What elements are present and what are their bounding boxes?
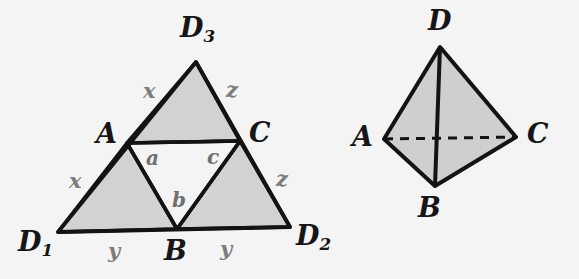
figure-root: D3 D1 D2 A B C x z x z y y a b c D A B C [0, 0, 579, 279]
label-edge-lower-left-x: x [69, 170, 82, 191]
label-inner-b: b [172, 190, 186, 210]
tetra-face-dbc [435, 47, 516, 186]
label-vertex-d1-subscript: 1 [41, 240, 53, 260]
label-tetra-vertex-a: A [352, 123, 373, 150]
label-vertex-b: B [164, 237, 187, 264]
label-edge-bottom-left-y: y [108, 240, 120, 261]
tetrahedron-group [384, 47, 516, 186]
label-vertex-d1: D1 [18, 228, 53, 259]
label-tetra-vertex-c: C [527, 120, 549, 147]
segment-ac [127, 141, 240, 143]
label-edge-upper-left-x: x [143, 80, 156, 101]
label-vertex-a: A [96, 120, 117, 147]
label-inner-a: a [146, 148, 159, 168]
label-vertex-d3-subscript: 3 [203, 26, 215, 46]
label-tetra-vertex-b: B [418, 194, 441, 221]
label-edge-lower-right-z: z [276, 168, 288, 189]
figure-canvas [0, 0, 579, 279]
label-vertex-d2: D2 [296, 222, 331, 253]
label-tetra-vertex-d: D [428, 7, 451, 34]
label-inner-c: c [207, 147, 219, 167]
label-vertex-d2-subscript: 2 [319, 234, 331, 254]
label-vertex-d3: D3 [180, 14, 215, 45]
label-edge-bottom-right-y: y [220, 238, 232, 259]
label-edge-upper-right-z: z [226, 79, 238, 100]
tetra-edge-ac-hidden [384, 137, 516, 139]
label-vertex-c: C [249, 119, 271, 146]
